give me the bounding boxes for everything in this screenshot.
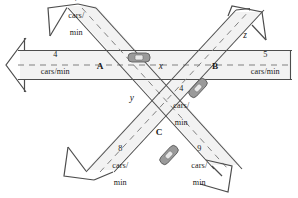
car-horizontal-icon	[128, 53, 150, 62]
traffic-flow-figure: 7 cars/ min 4 cars/min 5 cars/min 4 cars…	[0, 0, 298, 198]
traffic-network-diagram	[0, 0, 298, 198]
road-band-nw-se	[68, 6, 240, 165]
arrow-bottom-left	[64, 147, 94, 180]
car-lower-right-diagonal-icon	[158, 144, 180, 166]
